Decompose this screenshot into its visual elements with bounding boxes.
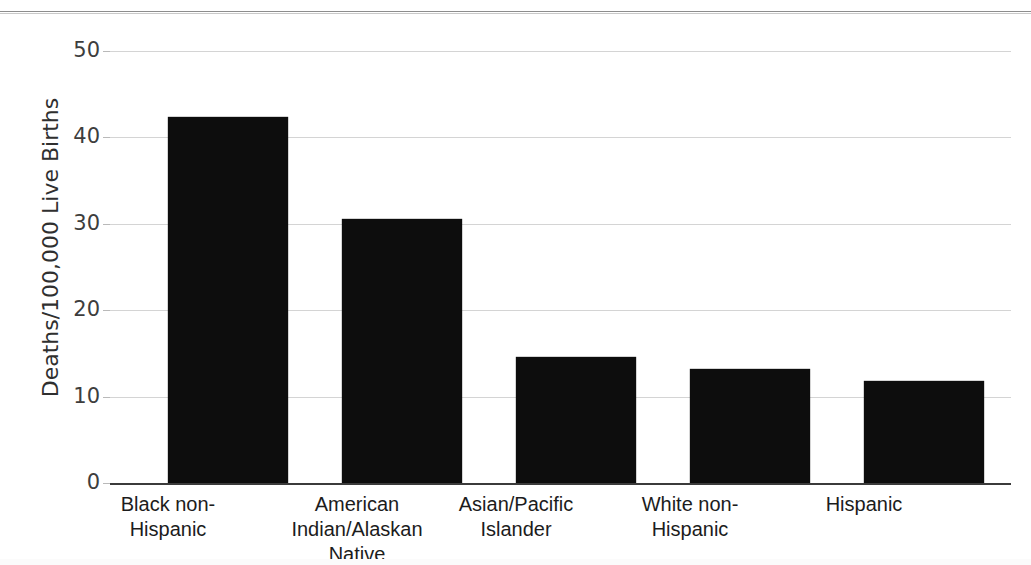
y-tick-label-50: 50 (73, 38, 100, 62)
y-tick-label-30: 30 (73, 211, 100, 235)
x-label-line: Hispanic (794, 492, 934, 517)
bar-white-non-hispanic (690, 369, 810, 483)
x-label-black-non-hispanic: Black non- Hispanic (98, 492, 238, 542)
x-label-line: Hispanic (98, 517, 238, 542)
x-label-line: Islander (441, 517, 591, 542)
x-label-line: Black non- (98, 492, 238, 517)
y-tick-label-10: 10 (73, 384, 100, 408)
x-label-hispanic: Hispanic (794, 492, 934, 517)
y-axis-ticks: 50 40 30 20 10 0 (0, 0, 100, 565)
x-label-american-indian-alaskan-native: American Indian/Alaskan Native (262, 492, 452, 565)
y-tick-mark-10 (103, 397, 110, 398)
bar-chart-figure: Deaths/100,000 Live Births 50 40 30 20 1… (0, 0, 1031, 565)
x-label-line: White non- (620, 492, 760, 517)
top-horizontal-rule (0, 11, 1031, 12)
x-label-white-non-hispanic: White non- Hispanic (620, 492, 760, 542)
y-tick-label-0: 0 (87, 470, 100, 494)
bar-asian-pacific-islander (516, 357, 636, 483)
gridline-50 (110, 51, 1011, 52)
y-tick-mark-0 (103, 483, 110, 484)
y-tick-mark-40 (103, 137, 110, 138)
x-axis-line (110, 483, 1011, 485)
y-tick-label-40: 40 (73, 124, 100, 148)
y-tick-mark-30 (103, 224, 110, 225)
y-tick-mark-20 (103, 310, 110, 311)
y-tick-mark-50 (103, 51, 110, 52)
x-label-line: Indian/Alaskan (262, 517, 452, 542)
x-label-asian-pacific-islander: Asian/Pacific Islander (441, 492, 591, 542)
y-tick-label-20: 20 (73, 297, 100, 321)
plot-area (110, 51, 1011, 483)
bar-black-non-hispanic (168, 117, 288, 483)
x-label-line: American (262, 492, 452, 517)
bar-hispanic (864, 381, 984, 483)
top-horizontal-rule-shadow (0, 13, 1031, 14)
x-label-line: Asian/Pacific (441, 492, 591, 517)
x-label-line: Hispanic (620, 517, 760, 542)
bar-american-indian-alaskan (342, 219, 462, 483)
scan-edge-band (0, 559, 1031, 565)
